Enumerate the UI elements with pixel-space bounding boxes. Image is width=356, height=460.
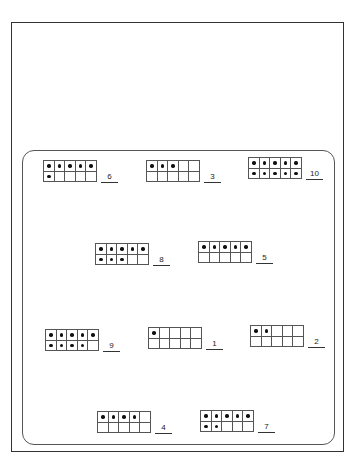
ten-frame-grid bbox=[43, 160, 97, 182]
dot-icon bbox=[96, 244, 107, 255]
dot-icon bbox=[158, 161, 169, 172]
dot-icon bbox=[44, 172, 55, 183]
dot-icon bbox=[262, 326, 273, 337]
empty-cell bbox=[130, 423, 141, 434]
dot-icon bbox=[233, 411, 244, 422]
dot-icon bbox=[281, 169, 292, 180]
empty-cell bbox=[168, 172, 179, 183]
ten-frame-grid bbox=[250, 325, 304, 347]
empty-cell bbox=[138, 255, 149, 266]
answer-blank[interactable]: 9 bbox=[103, 341, 120, 352]
empty-cell bbox=[293, 337, 304, 348]
dot-icon bbox=[107, 255, 118, 266]
dot-icon bbox=[201, 411, 212, 422]
dot-icon bbox=[147, 161, 158, 172]
dot-icon bbox=[57, 330, 68, 341]
answer-blank[interactable]: 2 bbox=[308, 337, 325, 348]
dot-icon bbox=[138, 244, 149, 255]
empty-cell bbox=[170, 328, 181, 339]
dot-icon bbox=[109, 412, 120, 423]
dot-icon bbox=[76, 161, 87, 172]
empty-cell bbox=[191, 328, 202, 339]
dot-icon bbox=[46, 341, 57, 352]
dot-icon bbox=[260, 169, 271, 180]
dot-icon bbox=[260, 158, 271, 169]
ten-frame-grid bbox=[95, 243, 149, 265]
answer-blank[interactable]: 3 bbox=[204, 172, 221, 183]
dot-icon bbox=[57, 341, 68, 352]
ten-frame-grid bbox=[148, 327, 202, 349]
dot-icon bbox=[201, 422, 212, 433]
empty-cell bbox=[181, 339, 192, 350]
dot-icon bbox=[249, 169, 260, 180]
dot-icon bbox=[241, 242, 252, 253]
empty-cell bbox=[86, 172, 97, 183]
empty-cell bbox=[283, 326, 294, 337]
dot-icon bbox=[128, 244, 139, 255]
dot-icon bbox=[46, 330, 57, 341]
dot-icon bbox=[88, 330, 99, 341]
empty-cell bbox=[181, 328, 192, 339]
dot-icon bbox=[210, 242, 221, 253]
dot-icon bbox=[251, 326, 262, 337]
dot-icon bbox=[117, 255, 128, 266]
empty-cell bbox=[160, 328, 171, 339]
dot-icon bbox=[119, 412, 130, 423]
answer-blank[interactable]: 8 bbox=[153, 255, 170, 266]
empty-cell bbox=[179, 161, 190, 172]
dot-icon bbox=[67, 330, 78, 341]
dot-icon bbox=[44, 161, 55, 172]
answer-blank[interactable]: 7 bbox=[258, 422, 275, 433]
empty-cell bbox=[283, 337, 294, 348]
dot-icon bbox=[222, 411, 233, 422]
dot-icon bbox=[98, 412, 109, 423]
empty-cell bbox=[222, 422, 233, 433]
empty-cell bbox=[189, 161, 200, 172]
dot-icon bbox=[281, 158, 292, 169]
ten-frame-grid bbox=[200, 410, 254, 432]
dot-icon bbox=[149, 328, 160, 339]
empty-cell bbox=[65, 172, 76, 183]
empty-cell bbox=[272, 337, 283, 348]
empty-cell bbox=[231, 253, 242, 264]
empty-cell bbox=[160, 339, 171, 350]
answer-blank[interactable]: 10 bbox=[306, 169, 323, 180]
empty-cell bbox=[140, 412, 151, 423]
empty-cell bbox=[119, 423, 130, 434]
empty-cell bbox=[128, 255, 139, 266]
dot-icon bbox=[291, 158, 302, 169]
empty-cell bbox=[189, 172, 200, 183]
empty-cell bbox=[147, 172, 158, 183]
dot-icon bbox=[231, 242, 242, 253]
empty-cell bbox=[210, 253, 221, 264]
dot-icon bbox=[67, 341, 78, 352]
empty-cell bbox=[191, 339, 202, 350]
answer-blank[interactable]: 5 bbox=[256, 253, 273, 264]
dot-icon bbox=[78, 341, 89, 352]
empty-cell bbox=[262, 337, 273, 348]
empty-cell bbox=[293, 326, 304, 337]
dot-icon bbox=[270, 158, 281, 169]
dot-icon bbox=[130, 412, 141, 423]
empty-cell bbox=[233, 422, 244, 433]
empty-cell bbox=[272, 326, 283, 337]
dot-icon bbox=[117, 244, 128, 255]
empty-cell bbox=[98, 423, 109, 434]
empty-cell bbox=[199, 253, 210, 264]
dot-icon bbox=[107, 244, 118, 255]
empty-cell bbox=[220, 253, 231, 264]
empty-cell bbox=[76, 172, 87, 183]
empty-cell bbox=[55, 172, 66, 183]
answer-blank[interactable]: 1 bbox=[206, 339, 223, 350]
dot-icon bbox=[243, 411, 254, 422]
ten-frame-grid bbox=[146, 160, 200, 182]
answer-blank[interactable]: 6 bbox=[101, 172, 118, 183]
ten-frame-grid bbox=[248, 157, 302, 179]
dot-icon bbox=[291, 169, 302, 180]
empty-cell bbox=[140, 423, 151, 434]
dot-icon bbox=[212, 422, 223, 433]
answer-blank[interactable]: 4 bbox=[155, 423, 172, 434]
empty-cell bbox=[109, 423, 120, 434]
ten-frame-grid bbox=[198, 241, 252, 263]
empty-cell bbox=[241, 253, 252, 264]
